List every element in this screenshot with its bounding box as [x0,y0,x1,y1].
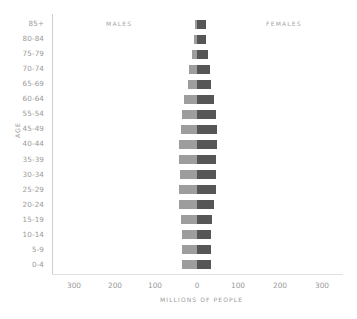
age-label: 5-9 [0,245,44,255]
females-label: FEMALES [266,20,302,27]
male-bar [182,110,197,119]
age-label: 20-24 [0,200,44,210]
x-tick-label: 300 [59,281,89,290]
male-bar [179,140,197,149]
female-bar [197,155,216,164]
males-label: MALES [106,20,132,27]
male-bar [181,125,197,134]
age-label: 25-29 [0,185,44,195]
female-bar [197,20,206,29]
male-bar [181,215,197,224]
male-bar [179,185,197,194]
x-axis-line [52,274,343,275]
female-bar [197,185,216,194]
age-label: 60-64 [0,94,44,104]
female-bar [197,35,206,44]
age-label: 35-39 [0,155,44,165]
female-bar [197,110,216,119]
male-bar [179,155,197,164]
male-bar [182,230,197,239]
male-bar [180,170,197,179]
male-bar [184,95,197,104]
x-tick-label: 0 [182,281,212,290]
male-bar [182,260,197,269]
age-label: 65-69 [0,79,44,89]
x-tick-label: 100 [223,281,253,290]
female-bar [197,260,211,269]
female-bar [197,50,208,59]
x-tick-label: 200 [100,281,130,290]
female-bar [197,230,211,239]
age-label: 30-34 [0,170,44,180]
y-axis-line [52,14,53,274]
female-bar [197,140,217,149]
female-bar [197,80,211,89]
male-bar [189,65,197,74]
age-label: 45-49 [0,124,44,134]
female-bar [197,125,217,134]
female-bar [197,95,214,104]
population-pyramid-chart: AGE MILLIONS OF PEOPLE MALES FEMALES 85+… [0,0,357,319]
female-bar [197,65,210,74]
female-bar [197,215,212,224]
age-label: 80-84 [0,34,44,44]
age-label: 85+ [0,19,44,29]
x-tick-label: 200 [265,281,295,290]
age-label: 70-74 [0,64,44,74]
age-label: 75-79 [0,49,44,59]
age-label: 15-19 [0,215,44,225]
male-bar [188,80,197,89]
age-label: 0-4 [0,260,44,270]
x-axis-title: MILLIONS OF PEOPLE [160,296,243,303]
age-label: 10-14 [0,230,44,240]
age-label: 55-54 [0,109,44,119]
male-bar [182,245,197,254]
female-bar [197,200,214,209]
x-tick-label: 100 [140,281,170,290]
female-bar [197,245,211,254]
female-bar [197,170,216,179]
x-tick-label: 300 [307,281,337,290]
male-bar [179,200,197,209]
age-label: 40-44 [0,139,44,149]
